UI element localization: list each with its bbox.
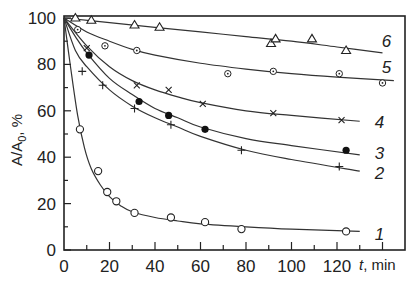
x-axis-label: t, min (359, 256, 396, 273)
marker-dotted-circle (336, 70, 342, 76)
y-tick-label: 40 (37, 148, 56, 167)
curve-label-5: 5 (382, 58, 392, 77)
marker-open-triangle (130, 20, 139, 28)
marker-plus (335, 162, 343, 170)
marker-dotted-circle (74, 26, 80, 32)
marker-plus (99, 81, 107, 89)
curve-label-4: 4 (375, 113, 384, 132)
x-tick-label: 40 (146, 257, 165, 276)
curve-1 (64, 18, 360, 231)
x-tick-label: 20 (100, 257, 119, 276)
marker-dotted-circle (225, 70, 231, 76)
marker-open-circle (238, 226, 245, 233)
x-tick-label: 120 (323, 257, 351, 276)
y-tick-label: 80 (37, 55, 56, 74)
marker-open-circle (201, 219, 208, 226)
x-tick-label: 80 (237, 257, 256, 276)
marker-open-triangle (71, 14, 80, 22)
marker-open-triangle (155, 23, 164, 31)
marker-open-triangle (342, 46, 351, 54)
marker-plus (167, 121, 175, 129)
y-tick-label: 60 (37, 102, 56, 121)
marker-open-circle (95, 168, 102, 175)
marker-filled-circle (201, 126, 208, 133)
svg-text:t, min: t, min (359, 256, 396, 273)
x-tick-label: 100 (277, 257, 305, 276)
marker-open-circle (76, 126, 83, 133)
curve-label-6: 6 (382, 32, 392, 51)
y-tick-label: 100 (28, 9, 56, 28)
y-tick-label: 0 (47, 241, 56, 260)
curve-label-2: 2 (374, 164, 385, 183)
curve-label-1: 1 (375, 225, 384, 244)
marker-dotted-circle (270, 68, 276, 74)
marker-dotted-circle (102, 43, 108, 49)
y-tick-label: 20 (37, 195, 56, 214)
svg-text:A/A0, %: A/A0, % (8, 114, 28, 166)
x-tick-label: 0 (59, 257, 68, 276)
marker-open-circle (343, 228, 350, 235)
marker-filled-circle (85, 52, 92, 59)
curve-3 (64, 18, 360, 155)
marker-x (166, 87, 172, 93)
marker-open-circle (167, 214, 174, 221)
marker-filled-circle (343, 147, 350, 154)
marker-dotted-circle (379, 80, 385, 86)
chart: 020406080100 020406080100120 123456 A/A0… (0, 0, 419, 284)
marker-open-triangle (271, 34, 280, 42)
marker-open-circle (104, 188, 111, 195)
marker-filled-circle (135, 98, 142, 105)
marker-plus (78, 67, 86, 75)
marker-plus (237, 146, 245, 154)
x-tick-label: 60 (191, 257, 210, 276)
marker-open-circle (131, 209, 138, 216)
marker-open-circle (113, 198, 120, 205)
curve-labels: 123456 (374, 32, 392, 244)
marker-open-triangle (87, 16, 96, 24)
marker-dotted-circle (134, 47, 140, 53)
curve-label-3: 3 (375, 144, 385, 163)
x-axis-ticks: 020406080100120 (59, 242, 382, 276)
marker-filled-circle (165, 112, 172, 119)
curve-6 (64, 18, 383, 53)
plot-frame (64, 16, 405, 250)
marker-open-triangle (307, 34, 316, 42)
y-axis-label: A/A0, % (8, 114, 28, 166)
